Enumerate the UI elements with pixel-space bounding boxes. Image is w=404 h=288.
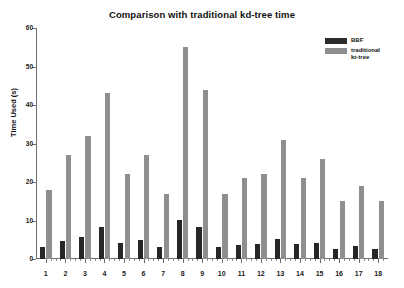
bar-bbf-4	[99, 227, 104, 259]
legend-label: BBF	[351, 37, 363, 45]
x-tick-minor	[383, 259, 384, 261]
bar-kdtree-17	[359, 186, 364, 259]
x-tick-minor	[192, 259, 193, 261]
legend-item-kdtree: traditional kt-tree	[325, 47, 401, 62]
bar-bbf-11	[236, 245, 241, 259]
x-tick-minor	[354, 259, 355, 261]
y-axis-spine	[36, 28, 37, 259]
chart-legend: BBFtraditional kt-tree	[325, 37, 401, 64]
x-tick-minor	[368, 259, 369, 261]
bar-kdtree-7	[164, 194, 169, 259]
x-tick-mark-3	[85, 259, 86, 263]
bar-kdtree-16	[340, 201, 345, 259]
x-tick-minor	[315, 259, 316, 261]
x-tick-minor	[109, 259, 110, 261]
x-tick-minor	[148, 259, 149, 261]
x-tick-minor	[188, 259, 189, 261]
x-tick-mark-11	[241, 259, 242, 263]
x-tick-minor	[236, 259, 237, 261]
x-tick-minor	[56, 259, 57, 261]
bar-bbf-9	[196, 227, 201, 259]
x-tick-mark-8	[183, 259, 184, 263]
bar-kdtree-15	[320, 159, 325, 259]
x-tick-mark-13	[280, 259, 281, 263]
bar-kdtree-4	[105, 93, 110, 259]
bar-bbf-16	[333, 249, 338, 259]
bar-kdtree-3	[85, 136, 90, 259]
legend-label: traditional kt-tree	[351, 47, 380, 62]
bar-bbf-1	[40, 247, 45, 259]
x-tick-minor	[329, 259, 330, 261]
y-tick-label: 60	[26, 24, 33, 31]
bar-kdtree-9	[203, 90, 208, 259]
x-tick-minor	[139, 259, 140, 261]
bar-kdtree-12	[261, 174, 266, 259]
x-tick-minor	[266, 259, 267, 261]
x-tick-minor	[364, 259, 365, 261]
x-tick-mark-16	[339, 259, 340, 263]
bar-kdtree-5	[125, 174, 130, 259]
x-tick-minor	[256, 259, 257, 261]
x-tick-minor	[100, 259, 101, 261]
x-tick-minor	[373, 259, 374, 261]
x-tick-mark-10	[222, 259, 223, 263]
x-tick-minor	[207, 259, 208, 261]
bar-kdtree-2	[66, 155, 71, 259]
x-tick-minor	[153, 259, 154, 261]
x-tick-minor	[95, 259, 96, 261]
y-tick-label: 20	[26, 178, 33, 185]
x-tick-minor	[232, 259, 233, 261]
x-tick-minor	[129, 259, 130, 261]
x-tick-minor	[349, 259, 350, 261]
x-tick-minor	[114, 259, 115, 261]
bar-bbf-13	[275, 239, 280, 259]
legend-swatch-bbf	[325, 38, 347, 44]
x-tick-mark-17	[359, 259, 360, 263]
x-tick-minor	[344, 259, 345, 261]
x-tick-mark-7	[163, 259, 164, 263]
x-tick-minor	[324, 259, 325, 261]
x-tick-minor	[295, 259, 296, 261]
x-tick-mark-2	[65, 259, 66, 263]
x-tick-minor	[70, 259, 71, 261]
bar-bbf-2	[60, 241, 65, 259]
x-tick-mark-1	[46, 259, 47, 263]
chart-figure: Comparison with traditional kd-tree time…	[0, 0, 404, 288]
x-tick-minor	[197, 259, 198, 261]
x-tick-minor	[227, 259, 228, 261]
bar-bbf-5	[118, 243, 123, 259]
y-tick-label: 10	[26, 217, 33, 224]
x-tick-minor	[90, 259, 91, 261]
bar-bbf-8	[177, 220, 182, 259]
bar-kdtree-18	[379, 201, 384, 259]
x-tick-mark-15	[320, 259, 321, 263]
chart-title: Comparison with traditional kd-tree time	[0, 9, 404, 20]
y-tick-label: 0	[29, 255, 33, 262]
x-tick-minor	[134, 259, 135, 261]
x-tick-minor	[173, 259, 174, 261]
x-tick-minor	[310, 259, 311, 261]
x-tick-minor	[178, 259, 179, 261]
x-tick-mark-18	[378, 259, 379, 263]
y-axis-label: Time Used (s)	[9, 73, 18, 153]
legend-swatch-kd	[325, 48, 347, 54]
x-tick-minor	[285, 259, 286, 261]
x-tick-mark-4	[104, 259, 105, 263]
y-tick-label: 50	[26, 63, 33, 70]
bar-bbf-12	[255, 244, 260, 259]
bar-bbf-18	[372, 249, 377, 259]
x-tick-minor	[290, 259, 291, 261]
bar-bbf-7	[157, 247, 162, 259]
bar-bbf-3	[79, 237, 84, 259]
bar-bbf-6	[138, 240, 143, 259]
x-tick-minor	[80, 259, 81, 261]
x-tick-mark-5	[124, 259, 125, 263]
x-tick-mark-14	[300, 259, 301, 263]
x-tick-mark-9	[202, 259, 203, 263]
bar-kdtree-6	[144, 155, 149, 259]
x-tick-minor	[334, 259, 335, 261]
y-tick-label: 30	[26, 140, 33, 147]
bar-kdtree-1	[46, 190, 51, 259]
legend-item-bbf: BBF	[325, 37, 401, 45]
bar-bbf-10	[216, 247, 221, 259]
